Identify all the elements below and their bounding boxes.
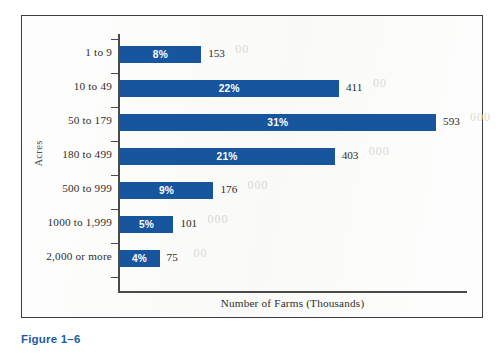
bar-row: 50 to 17931%593 — [22, 106, 484, 140]
bar-percent-label: 22% — [120, 80, 339, 97]
category-label: 500 to 999 — [0, 182, 112, 194]
bar-value-label: 101 — [180, 217, 197, 229]
x-axis-line — [118, 291, 467, 293]
bar: 4% — [120, 250, 160, 267]
x-axis-title: Number of Farms (Thousands) — [118, 297, 467, 309]
bar: 8% — [120, 46, 202, 63]
bar-percent-label: 5% — [120, 216, 174, 233]
bar-row: 1000 to 1,9995%101 — [22, 208, 484, 242]
figure-caption: Figure 1–6 — [21, 333, 81, 345]
bar-value-label: 75 — [167, 251, 178, 263]
bar-value-label: 593 — [443, 115, 460, 127]
bar-percent-label: 9% — [120, 182, 214, 199]
bar: 22% — [120, 80, 339, 97]
bar: 21% — [120, 148, 335, 165]
bar-row: 1 to 98%153 — [22, 38, 484, 72]
bar: 5% — [120, 216, 174, 233]
category-label: 1 to 9 — [0, 46, 112, 58]
y-axis-tick — [111, 277, 118, 278]
bar-row: 10 to 4922%411 — [22, 72, 484, 106]
bar-percent-label: 21% — [120, 148, 335, 165]
bar-value-label: 153 — [208, 47, 225, 59]
bar-percent-label: 31% — [120, 114, 437, 131]
category-label: 10 to 49 — [0, 80, 112, 92]
bar-row: 180 to 49921%403 — [22, 140, 484, 174]
bar-value-label: 403 — [342, 149, 359, 161]
bar: 9% — [120, 182, 214, 199]
bar: 31% — [120, 114, 437, 131]
bar-row: 500 to 9999%176 — [22, 174, 484, 208]
bar-value-label: 411 — [346, 81, 362, 93]
bar-percent-label: 4% — [120, 250, 160, 267]
category-label: 2,000 or more — [0, 250, 112, 262]
category-label: 50 to 179 — [0, 114, 112, 126]
category-label: 180 to 499 — [0, 148, 112, 160]
category-label: 1000 to 1,999 — [0, 216, 112, 228]
y-axis-title: Acres — [33, 124, 44, 184]
bar-value-label: 176 — [220, 183, 237, 195]
bar-chart-plot-area: 1 to 98%15310 to 4922%41150 to 17931%593… — [22, 16, 484, 319]
bar-percent-label: 8% — [120, 46, 202, 63]
figure-frame: 1 to 98%15310 to 4922%41150 to 17931%593… — [21, 15, 483, 318]
bar-row: 2,000 or more4%75 — [22, 242, 484, 276]
